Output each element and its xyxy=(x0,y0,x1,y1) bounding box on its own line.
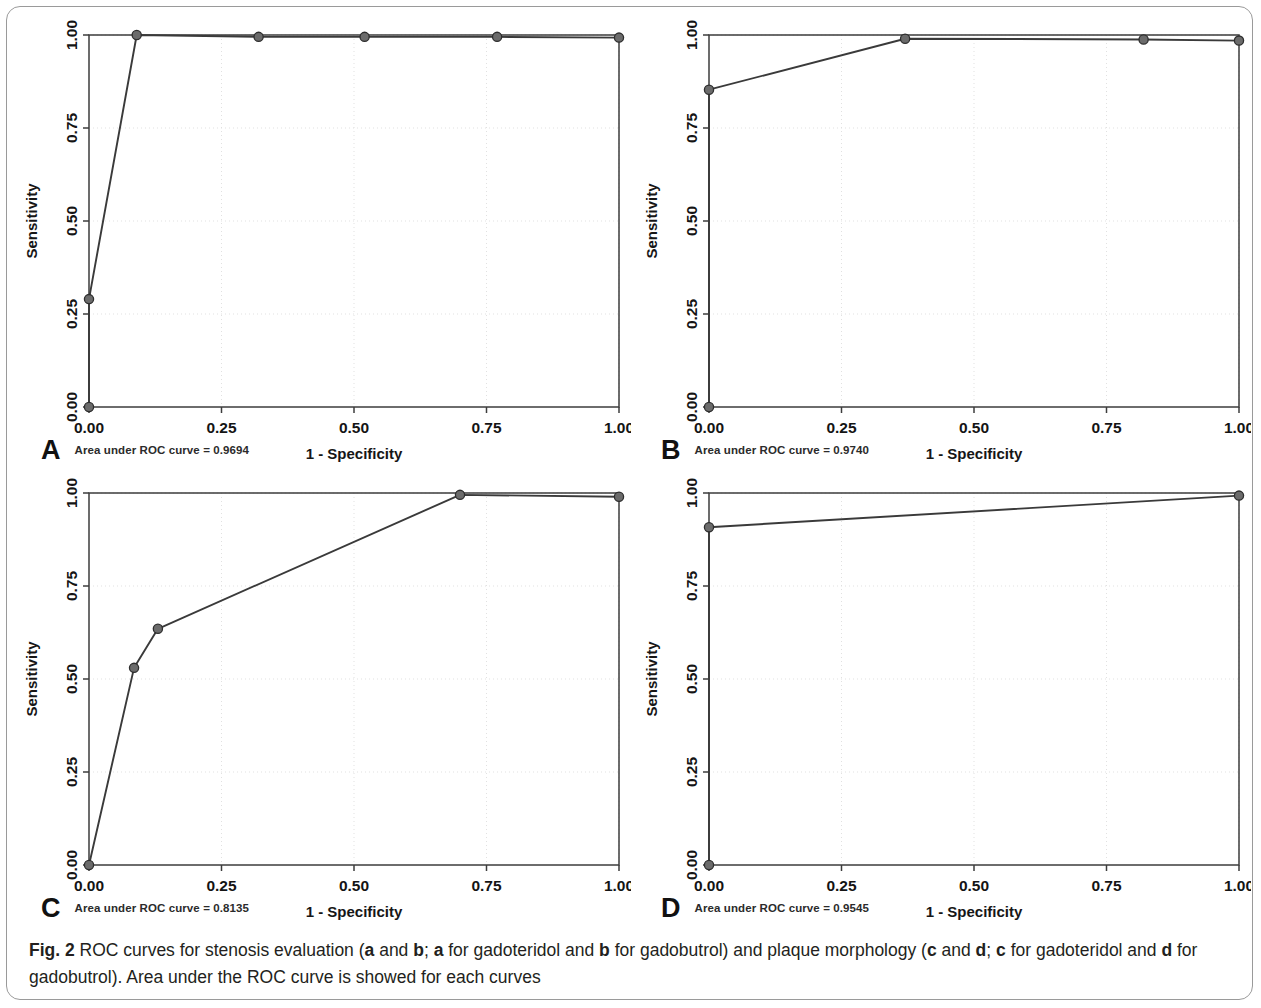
panel-c-auc-label: Area under ROC curve = 0.8135 xyxy=(75,902,250,914)
svg-text:1.00: 1.00 xyxy=(683,478,700,508)
svg-text:1 - Specificity: 1 - Specificity xyxy=(926,445,1023,462)
roc-chart-d: 0.000.250.500.751.000.000.250.500.751.00… xyxy=(631,467,1251,927)
svg-text:0.75: 0.75 xyxy=(471,419,502,436)
svg-text:0.25: 0.25 xyxy=(683,299,700,330)
figure-frame: 0.000.250.500.751.000.000.250.500.751.00… xyxy=(6,6,1253,1000)
panel-a-auc-label: Area under ROC curve = 0.9694 xyxy=(75,444,250,456)
caption-prefix: Fig. 2 xyxy=(29,940,75,960)
svg-text:0.00: 0.00 xyxy=(683,850,700,880)
svg-text:0.50: 0.50 xyxy=(339,877,369,894)
panel-c-footer: C Area under ROC curve = 0.8135 xyxy=(41,891,249,925)
panel-c-letter: C xyxy=(41,895,61,922)
svg-text:Sensitivity: Sensitivity xyxy=(643,641,660,717)
svg-text:0.75: 0.75 xyxy=(63,113,80,144)
svg-text:0.25: 0.25 xyxy=(63,299,80,330)
figure-caption: Fig. 2 ROC curves for stenosis evaluatio… xyxy=(29,937,1234,990)
roc-panel-c: 0.000.250.500.751.000.000.250.500.751.00… xyxy=(11,467,631,927)
svg-text:1.00: 1.00 xyxy=(604,877,631,894)
svg-text:1 - Specificity: 1 - Specificity xyxy=(306,445,403,462)
roc-panel-d: 0.000.250.500.751.000.000.250.500.751.00… xyxy=(631,467,1251,927)
panel-d-auc-label: Area under ROC curve = 0.9545 xyxy=(695,902,870,914)
svg-text:0.75: 0.75 xyxy=(1091,877,1122,894)
svg-text:1.00: 1.00 xyxy=(1224,419,1251,436)
roc-chart-b: 0.000.250.500.751.000.000.250.500.751.00… xyxy=(631,9,1251,469)
svg-text:0.00: 0.00 xyxy=(683,392,700,422)
svg-text:Sensitivity: Sensitivity xyxy=(23,183,40,259)
panel-b-letter: B xyxy=(661,437,681,464)
svg-text:0.50: 0.50 xyxy=(339,419,369,436)
svg-text:0.50: 0.50 xyxy=(683,206,700,236)
svg-text:1.00: 1.00 xyxy=(683,20,700,50)
svg-text:1.00: 1.00 xyxy=(1224,877,1251,894)
panel-d-letter: D xyxy=(661,895,681,922)
roc-panel-a: 0.000.250.500.751.000.000.250.500.751.00… xyxy=(11,9,631,469)
caption-body: ROC curves for stenosis evaluation (a an… xyxy=(29,940,1197,987)
svg-text:1.00: 1.00 xyxy=(63,478,80,508)
panel-a-letter: A xyxy=(41,437,61,464)
roc-chart-c: 0.000.250.500.751.000.000.250.500.751.00… xyxy=(11,467,631,927)
svg-text:1 - Specificity: 1 - Specificity xyxy=(306,903,403,920)
panel-b-footer: B Area under ROC curve = 0.9740 xyxy=(661,433,869,467)
roc-chart-a: 0.000.250.500.751.000.000.250.500.751.00… xyxy=(11,9,631,469)
svg-text:0.50: 0.50 xyxy=(959,419,989,436)
svg-text:0.00: 0.00 xyxy=(63,392,80,422)
svg-text:0.75: 0.75 xyxy=(683,571,700,602)
roc-panel-b: 0.000.250.500.751.000.000.250.500.751.00… xyxy=(631,9,1251,469)
svg-text:1 - Specificity: 1 - Specificity xyxy=(926,903,1023,920)
svg-text:0.50: 0.50 xyxy=(63,206,80,236)
svg-text:0.75: 0.75 xyxy=(1091,419,1122,436)
panel-d-footer: D Area under ROC curve = 0.9545 xyxy=(661,891,869,925)
svg-text:Sensitivity: Sensitivity xyxy=(643,183,660,259)
svg-text:Sensitivity: Sensitivity xyxy=(23,641,40,717)
svg-text:0.25: 0.25 xyxy=(683,757,700,788)
panel-a-footer: A Area under ROC curve = 0.9694 xyxy=(41,433,249,467)
svg-text:1.00: 1.00 xyxy=(604,419,631,436)
svg-text:0.50: 0.50 xyxy=(959,877,989,894)
svg-text:0.25: 0.25 xyxy=(63,757,80,788)
svg-text:0.75: 0.75 xyxy=(471,877,502,894)
svg-text:0.00: 0.00 xyxy=(63,850,80,880)
svg-text:0.75: 0.75 xyxy=(63,571,80,602)
svg-text:1.00: 1.00 xyxy=(63,20,80,50)
panel-b-auc-label: Area under ROC curve = 0.9740 xyxy=(695,444,870,456)
svg-text:0.50: 0.50 xyxy=(63,664,80,694)
svg-text:0.50: 0.50 xyxy=(683,664,700,694)
svg-text:0.75: 0.75 xyxy=(683,113,700,144)
panel-grid: 0.000.250.500.751.000.000.250.500.751.00… xyxy=(7,7,1254,927)
